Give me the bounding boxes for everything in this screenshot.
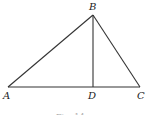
figure-caption: Fig. 14 [56,112,85,115]
label-d: D [87,90,96,101]
label-b: B [88,1,96,12]
segment-bc [93,15,140,87]
segment-ab [8,15,93,87]
label-c: C [137,90,145,101]
triangle-diagram: B A D C Fig. 14 [0,0,150,115]
label-a: A [2,90,10,101]
